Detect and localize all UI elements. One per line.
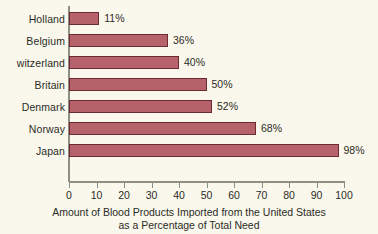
bar-row: Norway68% [69, 118, 344, 140]
x-axis-tick-label: 10 [91, 189, 103, 201]
x-axis-tick-label: 20 [118, 189, 130, 201]
x-axis-tick-label: 50 [201, 189, 213, 201]
bar-value-label: 68% [261, 122, 282, 135]
x-axis-tick [317, 183, 318, 188]
category-label: witzerland [17, 52, 65, 74]
x-axis-tick-label: 80 [283, 189, 295, 201]
bar [69, 78, 207, 91]
x-axis-tick [289, 183, 290, 188]
x-axis-tick-label: 0 [66, 189, 72, 201]
x-axis-tick [207, 183, 208, 188]
x-axis-tick [179, 183, 180, 188]
x-axis-tick [262, 183, 263, 188]
x-axis-tick-label: 60 [228, 189, 240, 201]
x-axis-tick [152, 183, 153, 188]
x-axis-tick-label: 70 [256, 189, 268, 201]
bar-value-label: 40% [184, 56, 205, 69]
plot-area: Holland11%Belgium36%witzerland40%Britain… [69, 8, 344, 180]
bar-value-label: 11% [104, 12, 124, 25]
x-axis-tick [97, 183, 98, 188]
bar [69, 100, 212, 113]
bar-row: Holland11% [69, 8, 344, 30]
bar-row: Japan98% [69, 140, 344, 162]
category-label: Japan [36, 140, 65, 162]
bar [69, 12, 99, 25]
category-label: Britain [35, 74, 65, 96]
bar [69, 144, 339, 157]
bar [69, 56, 179, 69]
bar [69, 122, 256, 135]
bar-row: Britain50% [69, 74, 344, 96]
category-label: Holland [29, 8, 65, 30]
x-axis-tick [344, 183, 345, 188]
bar-row: witzerland40% [69, 52, 344, 74]
category-label: Belgium [26, 30, 65, 52]
x-axis-tick-label: 90 [311, 189, 323, 201]
bar-value-label: 50% [212, 78, 233, 91]
x-axis-tick [234, 183, 235, 188]
bar-value-label: 36% [173, 34, 194, 47]
bar-value-label: 52% [217, 100, 238, 113]
x-axis-title-line2: as a Percentage of Total Need [0, 219, 378, 232]
bar-row: Denmark52% [69, 96, 344, 118]
x-axis-tick [69, 183, 70, 188]
bar-value-label: 98% [344, 144, 365, 157]
bar-chart: Holland11%Belgium36%witzerland40%Britain… [0, 0, 378, 234]
x-axis-tick [124, 183, 125, 188]
bar-row: Belgium36% [69, 30, 344, 52]
x-axis-tick-label: 30 [146, 189, 158, 201]
category-label: Denmark [22, 96, 65, 118]
x-axis-title: Amount of Blood Products Imported from t… [0, 206, 378, 232]
x-axis-title-line1: Amount of Blood Products Imported from t… [0, 206, 378, 219]
bar [69, 34, 168, 47]
x-axis-tick-label: 100 [335, 189, 353, 201]
category-label: Norway [29, 118, 65, 140]
x-axis-tick-label: 40 [173, 189, 185, 201]
